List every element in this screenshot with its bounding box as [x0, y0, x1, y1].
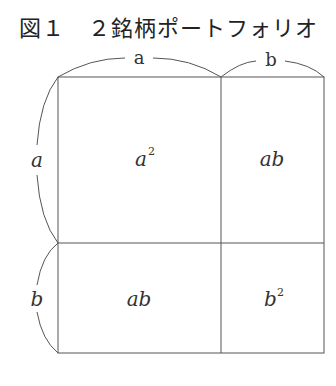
cell-a-squared: a: [135, 147, 147, 171]
cell-b-squared: b: [264, 287, 277, 311]
left-a-brace-bottom: [37, 175, 58, 243]
cell-ab-bottom: ab: [127, 287, 152, 311]
left-a-brace-top: [37, 77, 58, 145]
outer-square: [58, 77, 324, 353]
top-a-brace-left: [58, 58, 125, 77]
left-b-brace-bottom: [37, 312, 58, 353]
top-a-brace-right: [153, 58, 221, 77]
side-label-b: b: [31, 287, 44, 311]
top-b-brace-right: [285, 61, 324, 77]
top-b-brace-left: [221, 61, 256, 77]
cell-ab-top: ab: [260, 147, 285, 171]
top-label-b: b: [265, 49, 277, 70]
left-b-brace-top: [37, 243, 58, 285]
square-decomposition-diagram: a b a b a 2 ab ab b 2: [0, 0, 336, 386]
top-label-a: a: [134, 47, 145, 68]
side-label-a: a: [31, 148, 43, 172]
cell-a-squared-exponent: 2: [148, 145, 155, 158]
cell-b-squared-exponent: 2: [277, 286, 284, 299]
